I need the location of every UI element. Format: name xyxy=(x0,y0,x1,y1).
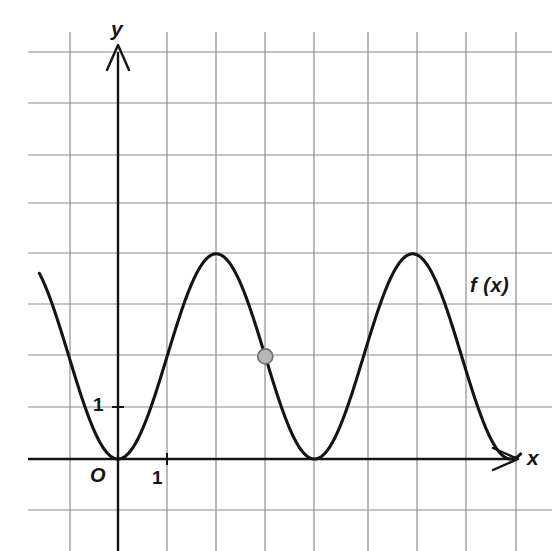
function-label: f (x) xyxy=(470,275,509,295)
x-tick-label-one: 1 xyxy=(152,468,163,487)
y-axis-label: y xyxy=(111,18,123,39)
y-axis xyxy=(107,45,129,551)
function-curve xyxy=(39,254,520,459)
graph-figure: y x O 1 1 f (x) xyxy=(0,0,552,551)
y-tick-label-one: 1 xyxy=(93,395,104,414)
x-axis-label: x xyxy=(527,447,539,468)
marked-point-dot[interactable] xyxy=(258,349,273,364)
grid-lines-vertical xyxy=(70,32,516,551)
origin-label: O xyxy=(90,465,106,485)
